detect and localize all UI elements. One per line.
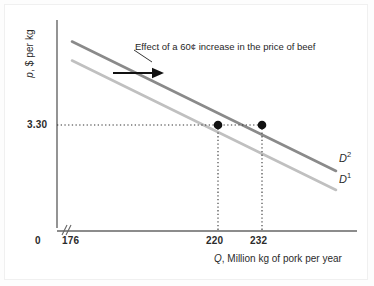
x-tick-label-220: 220 (206, 235, 223, 246)
equilibrium-point-e1 (214, 121, 223, 130)
demand-curve-d1 (72, 61, 336, 191)
demand-curve-d2 (72, 42, 336, 172)
x-axis-label-symbol: Q (214, 253, 222, 264)
equilibrium-point-e2 (258, 121, 267, 130)
x-tick-label-176: 176 (62, 235, 79, 246)
x-axis-label: Q, Million kg of pork per year (214, 253, 342, 264)
x-axis-label-units: , Million kg of pork per year (222, 253, 342, 264)
figure-container: p, $ per kg Q, Million kg of pork per ye… (0, 0, 374, 286)
y-axis-label: p, $ per kg (24, 11, 35, 97)
x-tick-label-232: 232 (250, 235, 267, 246)
y-tick-label-330: 3.30 (27, 119, 47, 130)
curve-label-d1: D1 (339, 173, 351, 185)
curve-label-d2-base: D (339, 152, 347, 164)
x-axis-break-icon (62, 225, 71, 235)
x-tick-label-0: 0 (35, 235, 41, 246)
y-axis-label-units: , $ per kg (24, 29, 35, 72)
shift-annotation-text: Effect of a 60¢ increase in the price of… (135, 41, 315, 52)
y-axis-label-symbol: p (24, 72, 35, 78)
shift-arrow-icon (113, 68, 164, 78)
curve-label-d1-base: D (339, 173, 347, 185)
curve-label-d2: D2 (339, 152, 351, 164)
curve-label-d1-sup: 1 (347, 171, 351, 180)
curve-label-d2-sup: 2 (347, 150, 351, 159)
